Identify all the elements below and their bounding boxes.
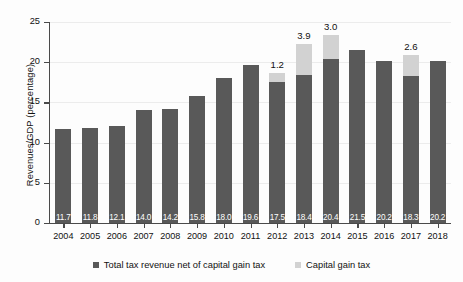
bar-group[interactable]: 19.6 xyxy=(243,22,259,223)
legend-label-total-tax-revenue: Total tax revenue net of capital gain ta… xyxy=(104,260,265,270)
y-axis-tick-label: 25 xyxy=(14,16,40,26)
bar-segment-capital-gain-tax[interactable] xyxy=(296,44,312,75)
legend-item-total-tax-revenue[interactable]: Total tax revenue net of capital gain ta… xyxy=(93,260,265,270)
bar-group[interactable]: 18.43.9 xyxy=(296,22,312,223)
x-axis-tick xyxy=(144,223,145,228)
x-axis-tick xyxy=(438,223,439,228)
revenues-gdp-stacked-bar-chart: Revenues/GDP (percentage) 0510152025 11.… xyxy=(0,0,463,282)
x-axis-tick xyxy=(304,223,305,228)
bar-group[interactable]: 18.0 xyxy=(216,22,232,223)
capital-gain-value-label: 1.2 xyxy=(257,59,297,70)
capital-gain-value-label: 3.0 xyxy=(311,21,351,32)
bar-segment-capital-gain-tax[interactable] xyxy=(323,35,339,59)
bar-segment-total-tax-revenue[interactable] xyxy=(136,110,152,223)
bar-segment-total-tax-revenue[interactable] xyxy=(55,129,71,223)
x-axis-category-label: 2018 xyxy=(418,231,458,241)
bar-value-label: 20.2 xyxy=(421,213,455,222)
bar-group[interactable]: 21.5 xyxy=(349,22,365,223)
x-axis-tick xyxy=(277,223,278,228)
y-axis-tick-label: 5 xyxy=(14,177,40,187)
legend-item-capital-gain-tax[interactable]: Capital gain tax xyxy=(295,260,370,270)
plot-area: 11.711.812.114.014.215.818.019.617.51.21… xyxy=(50,22,451,223)
y-axis-title: Revenues/GDP (percentage) xyxy=(25,25,35,225)
legend-label-capital-gain-tax: Capital gain tax xyxy=(306,260,370,270)
bar-segment-total-tax-revenue[interactable] xyxy=(109,126,125,223)
bar-group[interactable]: 14.0 xyxy=(136,22,152,223)
bar-group[interactable]: 11.8 xyxy=(82,22,98,223)
x-axis-tick xyxy=(63,223,64,228)
bar-segment-total-tax-revenue[interactable] xyxy=(323,59,339,223)
bar-group[interactable]: 18.32.6 xyxy=(403,22,419,223)
bar-segment-total-tax-revenue[interactable] xyxy=(403,76,419,223)
bar-segment-total-tax-revenue[interactable] xyxy=(296,75,312,223)
bar-segment-total-tax-revenue[interactable] xyxy=(189,96,205,223)
x-axis-tick xyxy=(197,223,198,228)
legend-swatch-capital-gain-tax xyxy=(295,262,301,268)
y-axis-tick-label: 10 xyxy=(14,137,40,147)
capital-gain-value-label: 2.6 xyxy=(391,41,431,52)
bar-segment-total-tax-revenue[interactable] xyxy=(216,78,232,223)
bar-group[interactable]: 20.2 xyxy=(430,22,446,223)
legend-swatch-total-tax-revenue xyxy=(93,262,99,268)
bar-segment-total-tax-revenue[interactable] xyxy=(430,61,446,223)
bar-group[interactable]: 11.7 xyxy=(55,22,71,223)
bar-segment-total-tax-revenue[interactable] xyxy=(269,82,285,223)
bar-segment-capital-gain-tax[interactable] xyxy=(269,73,285,83)
x-axis-tick xyxy=(331,223,332,228)
bar-group[interactable]: 20.2 xyxy=(376,22,392,223)
bar-group[interactable]: 17.51.2 xyxy=(269,22,285,223)
bar-segment-capital-gain-tax[interactable] xyxy=(403,55,419,76)
y-axis-tick-label: 15 xyxy=(14,96,40,106)
bar-segment-total-tax-revenue[interactable] xyxy=(349,50,365,223)
bar-group[interactable]: 14.2 xyxy=(162,22,178,223)
chart-legend: Total tax revenue net of capital gain ta… xyxy=(0,260,463,270)
x-axis-tick xyxy=(384,223,385,228)
y-axis-tick-label: 20 xyxy=(14,56,40,66)
x-axis-tick xyxy=(117,223,118,228)
x-axis-tick xyxy=(251,223,252,228)
bar-group[interactable]: 12.1 xyxy=(109,22,125,223)
x-axis-tick xyxy=(357,223,358,228)
bar-group[interactable]: 15.8 xyxy=(189,22,205,223)
bar-group[interactable]: 20.43.0 xyxy=(323,22,339,223)
x-axis-tick xyxy=(170,223,171,228)
x-axis-tick xyxy=(224,223,225,228)
bar-segment-total-tax-revenue[interactable] xyxy=(162,109,178,223)
y-axis-tick-label: 0 xyxy=(14,217,40,227)
bar-segment-total-tax-revenue[interactable] xyxy=(243,65,259,223)
bar-segment-total-tax-revenue[interactable] xyxy=(82,128,98,223)
bar-segment-total-tax-revenue[interactable] xyxy=(376,61,392,223)
x-axis-tick xyxy=(90,223,91,228)
x-axis-tick xyxy=(411,223,412,228)
